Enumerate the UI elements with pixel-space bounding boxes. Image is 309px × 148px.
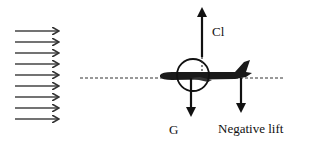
force-diagram: Cl G Negative lift	[0, 0, 309, 148]
lift-label: Cl	[212, 24, 224, 40]
airplane-icon	[160, 60, 252, 82]
gravity-label: G	[169, 122, 178, 138]
airflow-arrows	[15, 31, 58, 119]
negative-lift-label: Negative lift	[218, 121, 283, 137]
